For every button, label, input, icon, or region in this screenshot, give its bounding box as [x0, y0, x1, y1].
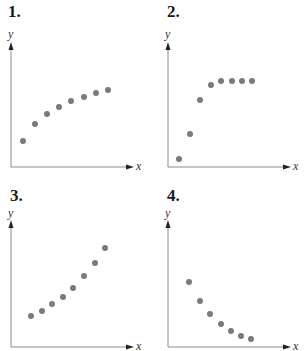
data-point	[81, 273, 87, 279]
y-axis-label: y	[8, 28, 13, 40]
plot-number-label: 1.	[8, 3, 21, 20]
plot-canvas	[0, 0, 308, 351]
data-point	[102, 245, 108, 251]
x-axis-label: x	[293, 160, 298, 172]
x-axis-label: x	[136, 340, 141, 351]
y-axis-label: y	[8, 207, 13, 219]
y-axis-arrow-icon	[166, 42, 171, 50]
plot-number-label: 2.	[167, 3, 180, 20]
y-axis-arrow-icon	[9, 42, 14, 50]
y-axis-arrow-icon	[166, 220, 171, 228]
data-point	[92, 260, 98, 266]
data-point	[81, 94, 87, 100]
x-axis-arrow-icon	[126, 165, 134, 170]
data-point	[60, 294, 66, 300]
data-point	[229, 78, 235, 84]
data-point	[239, 78, 245, 84]
data-point	[248, 336, 254, 342]
x-axis-label: x	[293, 340, 298, 351]
x-axis-arrow-icon	[283, 345, 291, 350]
data-point	[105, 87, 111, 93]
x-axis-label: x	[136, 160, 141, 172]
data-point	[228, 328, 234, 334]
data-point	[186, 279, 192, 285]
data-point	[238, 333, 244, 339]
data-point	[28, 313, 34, 319]
y-axis-label: y	[165, 207, 170, 219]
plot-number-label: 3.	[10, 187, 23, 204]
data-point	[249, 78, 255, 84]
data-point	[207, 311, 213, 317]
data-point	[208, 82, 214, 88]
data-point	[68, 98, 74, 104]
data-point	[39, 308, 45, 314]
data-point	[56, 104, 62, 110]
data-point	[20, 138, 26, 144]
data-point	[187, 131, 193, 137]
data-point	[32, 121, 38, 127]
x-axis-arrow-icon	[126, 345, 134, 350]
data-point	[197, 97, 203, 103]
data-point	[93, 90, 99, 96]
data-point	[218, 78, 224, 84]
data-point	[197, 298, 203, 304]
data-point	[218, 321, 224, 327]
y-axis-arrow-icon	[9, 220, 14, 228]
data-point	[176, 156, 182, 162]
data-point	[49, 301, 55, 307]
x-axis-arrow-icon	[283, 165, 291, 170]
data-point	[70, 285, 76, 291]
data-point	[44, 111, 50, 117]
plot-number-label: 4.	[167, 187, 180, 204]
y-axis-label: y	[165, 28, 170, 40]
